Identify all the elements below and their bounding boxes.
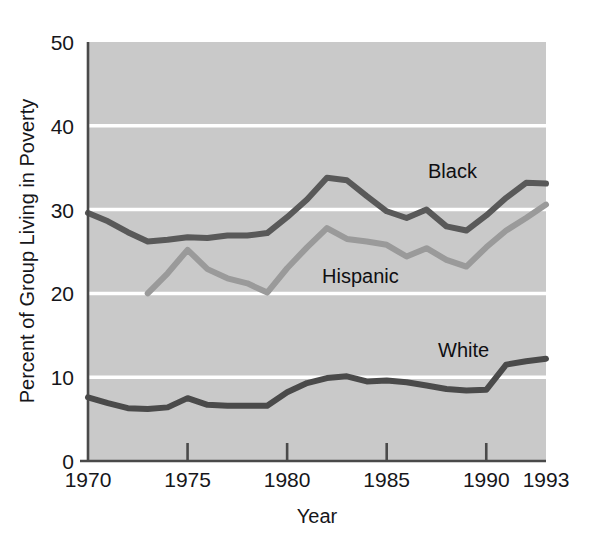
series-label-hispanic: Hispanic	[322, 265, 399, 287]
chart-canvas: 197019751980198519901993 01020304050 Bla…	[0, 0, 591, 553]
y-tick-label-40: 40	[51, 115, 74, 138]
x-tick-label-1980: 1980	[264, 468, 311, 491]
series-label-white: White	[438, 339, 489, 361]
x-axis-title: Year	[297, 505, 338, 527]
series-label-black: Black	[428, 160, 478, 182]
plot-area-background	[88, 42, 546, 461]
x-tick-label-1985: 1985	[363, 468, 410, 491]
y-tick-label-0: 0	[62, 450, 74, 473]
poverty-line-chart: 197019751980198519901993 01020304050 Bla…	[0, 0, 591, 553]
x-tick-label-1990: 1990	[463, 468, 510, 491]
y-tick-label-20: 20	[51, 282, 74, 305]
y-tick-label-10: 10	[51, 366, 74, 389]
x-tick-label-1993: 1993	[523, 468, 570, 491]
x-tick-label-1975: 1975	[164, 468, 211, 491]
y-axis-title: Percent of Group Living in Poverty	[16, 99, 38, 404]
y-tick-label-50: 50	[51, 31, 74, 54]
y-tick-label-30: 30	[51, 199, 74, 222]
